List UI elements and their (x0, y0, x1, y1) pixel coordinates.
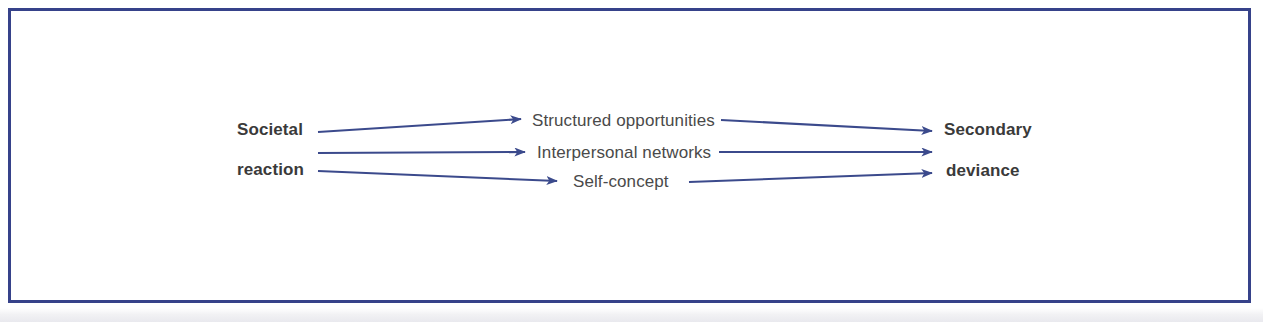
edge-self-concept-to-outcome (689, 173, 932, 182)
node-label-interpersonal-networks: Interpersonal networks (537, 144, 711, 161)
node-label-societal-reaction-line2: reaction (237, 161, 304, 178)
node-label-societal-reaction-line1: Societal (237, 121, 303, 138)
figure-root: Societal reaction Structured opportuniti… (0, 0, 1263, 322)
node-label-self-concept: Self-concept (573, 173, 669, 190)
edge-source-to-structured-opportunities (318, 119, 521, 132)
edge-structured-opportunities-to-outcome (721, 120, 932, 131)
edge-source-to-interpersonal-networks (318, 152, 525, 153)
node-label-secondary-deviance-line1: Secondary (944, 121, 1032, 138)
edge-source-to-self-concept (318, 171, 557, 181)
node-label-secondary-deviance-line2: deviance (946, 162, 1020, 179)
node-label-structured-opportunities: Structured opportunities (532, 112, 715, 129)
